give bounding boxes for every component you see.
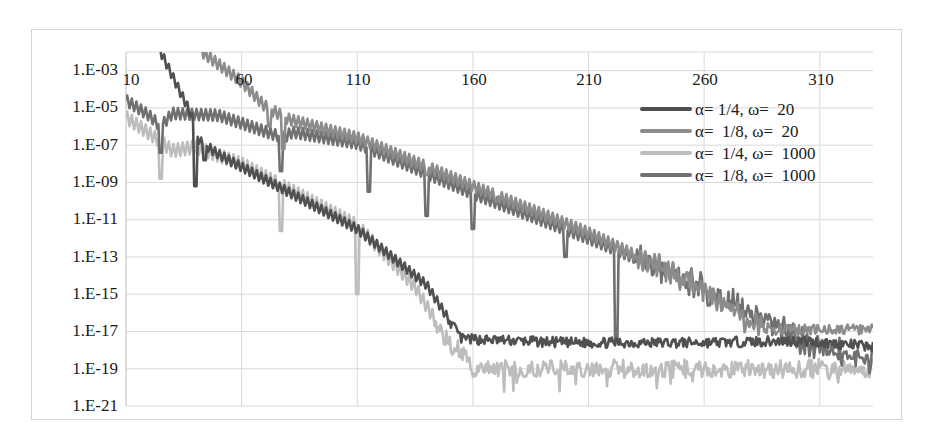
y-tick-label: 1.E-17 [28, 322, 118, 339]
x-tick-label: 210 [576, 71, 602, 88]
legend-label: α= 1/4, ω= 1000 [695, 145, 816, 162]
y-tick-label: 1.E-09 [28, 173, 118, 190]
y-tick-label: 1.E-21 [28, 397, 118, 414]
legend-item: α= 1/4, ω= 20 [640, 98, 816, 120]
legend-label: α= 1/8, ω= 1000 [695, 167, 816, 184]
x-tick-label: 60 [236, 71, 253, 88]
y-tick-label: 1.E-03 [28, 61, 118, 78]
legend-swatch [640, 107, 692, 111]
legend-label: α= 1/4, ω= 20 [695, 101, 794, 118]
x-tick-label: 160 [461, 71, 487, 88]
y-tick-label: 1.E-15 [28, 285, 118, 302]
y-tick-label: 1.E-19 [28, 360, 118, 377]
legend-item: α= 1/8, ω= 20 [640, 120, 816, 142]
legend-item: α= 1/4, ω= 1000 [640, 142, 816, 164]
plot-area [0, 0, 931, 445]
legend-swatch [640, 129, 692, 133]
legend: α= 1/4, ω= 20 α= 1/8, ω= 20 α= 1/4, ω= 1… [640, 98, 816, 186]
x-tick-label: 260 [692, 71, 718, 88]
y-tick-label: 1.E-07 [28, 136, 118, 153]
legend-swatch [640, 173, 692, 177]
x-tick-label: 10 [123, 71, 140, 88]
legend-item: α= 1/8, ω= 1000 [640, 164, 816, 186]
legend-label: α= 1/8, ω= 20 [695, 123, 799, 140]
x-tick-label: 110 [346, 71, 371, 88]
x-tick-label: 310 [808, 71, 834, 88]
legend-swatch [640, 151, 692, 155]
y-tick-label: 1.E-05 [28, 98, 118, 115]
y-tick-label: 1.E-13 [28, 248, 118, 265]
y-tick-label: 1.E-11 [28, 210, 118, 227]
